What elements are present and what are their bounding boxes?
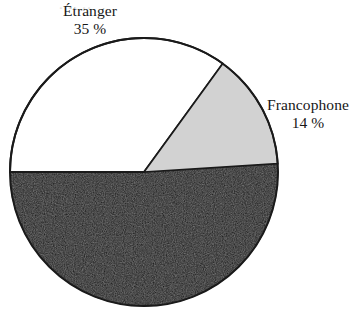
pie-chart-svg [0,0,355,329]
pie-slices-group [10,38,278,306]
pie-label-francophone-value: 14 % [262,114,354,132]
pie-label-francophone: Francophone 14 % [262,96,354,133]
pie-chart-figure: Étranger 35 % Francophone 14 % · ·· ·· [0,0,355,329]
pie-label-bottom-clipped: · ·· ·· [0,0,150,9]
pie-label-francophone-name: Francophone [267,96,349,113]
pie-slice-autre [10,164,278,306]
pie-label-etranger-value: 35 % [28,20,152,38]
pie-label-bottom-clipped-text: · ·· ·· [0,0,150,9]
